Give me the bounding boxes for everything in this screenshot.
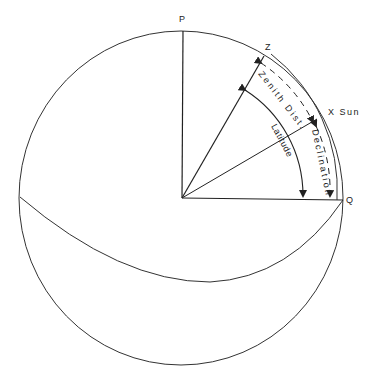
sun-line bbox=[182, 119, 317, 198]
label-equator: Q bbox=[346, 195, 353, 205]
label-zenith-distance: Zenith Dist. bbox=[256, 69, 308, 132]
pole-line bbox=[182, 31, 183, 198]
horizon-curve bbox=[20, 197, 343, 282]
sphere-outline bbox=[19, 31, 343, 365]
label-sun: X Sun bbox=[328, 107, 360, 117]
label-latitude: Latitude bbox=[269, 122, 295, 159]
label-zenith: Z bbox=[265, 42, 271, 52]
celestial-sphere-diagram: P Z X Sun Q Zenith Dist. Latitude Declin… bbox=[0, 0, 373, 382]
zenith-line bbox=[182, 56, 264, 198]
equator-line bbox=[182, 198, 343, 200]
label-pole: P bbox=[179, 14, 185, 24]
diagram-canvas: P Z X Sun Q Zenith Dist. Latitude Declin… bbox=[0, 0, 373, 382]
label-declination: Declination bbox=[310, 128, 334, 197]
